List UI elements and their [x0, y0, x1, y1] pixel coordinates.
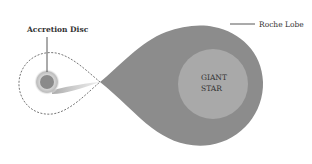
giant-star-label-line1: GIANT [201, 73, 227, 82]
accretion-disc-core [40, 75, 54, 89]
accretion-disc-label: Accretion Disc [26, 25, 89, 34]
roche-lobe-diagram: Accretion Disc Roche Lobe GIANT STAR [0, 0, 312, 164]
giant-star-label-line2: STAR [201, 84, 222, 93]
roche-lobe-label: Roche Lobe [259, 20, 304, 29]
